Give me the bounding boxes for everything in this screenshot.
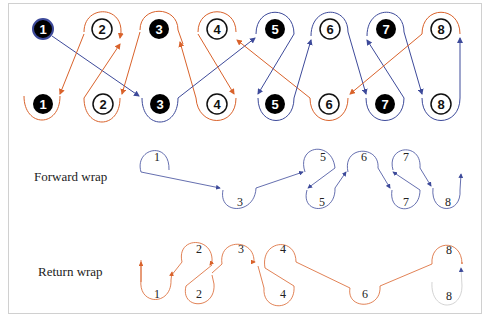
svg-text:1: 1 <box>154 287 160 301</box>
svg-text:5: 5 <box>320 150 326 164</box>
svg-text:1: 1 <box>39 22 46 37</box>
svg-text:7: 7 <box>381 97 388 112</box>
svg-text:5: 5 <box>319 195 325 209</box>
svg-text:4: 4 <box>280 287 286 301</box>
node-bottom-1: 1 <box>33 94 53 114</box>
node-top-4: 4 <box>207 19 227 39</box>
svg-text:7: 7 <box>403 195 409 209</box>
node-bottom-6: 6 <box>319 94 339 114</box>
svg-text:5: 5 <box>271 22 278 37</box>
node-top-8: 8 <box>431 19 451 39</box>
svg-text:2: 2 <box>98 22 105 37</box>
node-bottom-5: 5 <box>265 94 285 114</box>
svg-text:3: 3 <box>155 22 162 37</box>
node-top-3: 3 <box>149 19 169 39</box>
node-top-1: 1 <box>33 19 53 39</box>
svg-text:7: 7 <box>382 22 389 37</box>
svg-text:2: 2 <box>196 242 202 256</box>
node-bottom-3: 3 <box>150 94 170 114</box>
svg-text:6: 6 <box>326 22 333 37</box>
svg-text:8: 8 <box>446 289 452 303</box>
svg-text:8: 8 <box>445 195 451 209</box>
return-wrap-numbers: 2 3 4 8 1 2 4 6 8 <box>154 242 452 303</box>
return-wrap-paths <box>141 243 462 306</box>
svg-text:4: 4 <box>280 242 286 256</box>
forward-wrap-label: Forward wrap <box>34 169 107 184</box>
svg-text:4: 4 <box>213 22 221 37</box>
node-top-5: 5 <box>265 19 285 39</box>
forward-wrap-paths <box>140 149 461 209</box>
svg-text:3: 3 <box>238 242 244 256</box>
svg-text:2: 2 <box>196 287 202 301</box>
node-bottom-7: 7 <box>375 94 395 114</box>
svg-text:8: 8 <box>446 243 452 257</box>
svg-text:5: 5 <box>271 97 278 112</box>
forward-wrap-numbers: 1 5 6 7 3 5 7 8 <box>154 150 451 209</box>
node-bottom-4: 4 <box>207 94 227 114</box>
svg-text:8: 8 <box>437 97 444 112</box>
svg-text:3: 3 <box>156 97 163 112</box>
top-row-nodes: 1 2 3 4 5 6 7 8 <box>33 19 451 39</box>
svg-text:6: 6 <box>325 97 332 112</box>
node-bottom-2: 2 <box>93 94 113 114</box>
svg-text:6: 6 <box>362 287 368 301</box>
svg-text:3: 3 <box>237 195 243 209</box>
svg-text:6: 6 <box>361 150 367 164</box>
wrap-diagram: 1 2 3 4 5 6 7 8 1 2 3 4 5 6 7 8 Forward … <box>0 0 489 322</box>
svg-text:8: 8 <box>437 22 444 37</box>
svg-text:4: 4 <box>213 97 221 112</box>
svg-text:7: 7 <box>403 150 409 164</box>
node-top-2: 2 <box>92 19 112 39</box>
node-top-7: 7 <box>376 19 396 39</box>
node-bottom-8: 8 <box>431 94 451 114</box>
node-top-6: 6 <box>320 19 340 39</box>
bottom-row-nodes: 1 2 3 4 5 6 7 8 <box>33 94 451 114</box>
svg-text:2: 2 <box>99 97 106 112</box>
svg-text:1: 1 <box>39 97 46 112</box>
svg-text:1: 1 <box>154 150 160 164</box>
return-wrap-label: Return wrap <box>38 264 103 279</box>
